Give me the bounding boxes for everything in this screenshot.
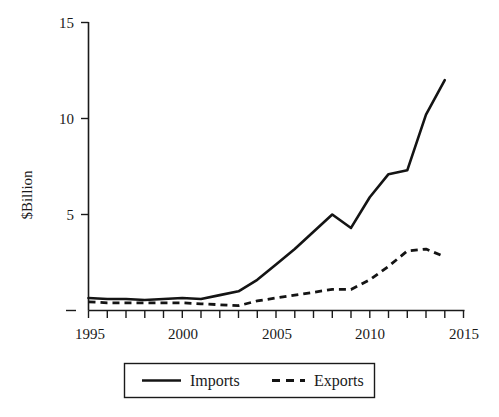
- x-tick-label-2005: 2005: [262, 326, 292, 342]
- x-tick-label-2015: 2015: [449, 326, 479, 342]
- y-tick-label-15: 15: [59, 15, 74, 31]
- line-chart: 15 10 5 $Billion: [0, 0, 499, 417]
- legend: Imports Exports: [125, 364, 375, 398]
- data-series-group: [89, 80, 445, 306]
- y-tick-label-5: 5: [67, 207, 75, 223]
- x-tick-label-2010: 2010: [355, 326, 385, 342]
- legend-label-imports: Imports: [190, 372, 240, 390]
- legend-label-exports: Exports: [314, 372, 364, 390]
- y-axis-ticks: [66, 23, 89, 311]
- series-line-imports: [89, 80, 445, 300]
- series-line-exports: [89, 249, 445, 306]
- x-tick-label-2000: 2000: [168, 326, 198, 342]
- y-axis-title: $Billion: [19, 170, 35, 220]
- x-axis-ticks: [89, 311, 464, 319]
- x-axis-tick-labels: 1995 2000 2005 2010 2015: [75, 326, 479, 342]
- y-axis-tick-labels: 15 10 5: [59, 15, 74, 223]
- y-axis: 15 10 5 $Billion: [19, 15, 89, 311]
- y-tick-label-10: 10: [59, 111, 74, 127]
- x-axis: 1995 2000 2005 2010 2015: [75, 311, 479, 343]
- x-tick-label-1995: 1995: [75, 326, 105, 342]
- chart-figure: 15 10 5 $Billion: [0, 0, 499, 417]
